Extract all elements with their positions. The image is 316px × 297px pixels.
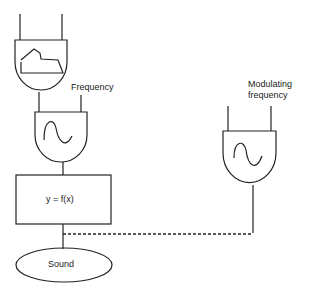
diagram-svg (0, 0, 316, 297)
sound-label: Sound (48, 259, 74, 270)
carrier-oscillator (35, 112, 87, 162)
sine-wave-icon (44, 122, 72, 143)
waveshaper-label: y = f(x) (46, 194, 74, 205)
envelope-shape-icon (21, 49, 63, 73)
envelope-generator (15, 14, 67, 90)
diagram-canvas: Frequency Modulating frequency y = f(x) … (0, 0, 316, 297)
modulating-label-line1: Modulating (248, 79, 292, 90)
modulator-oscillator (223, 106, 276, 183)
sine-wave-icon (234, 143, 262, 165)
modulating-label-line2: frequency (248, 90, 288, 101)
frequency-label: Frequency (71, 82, 114, 93)
